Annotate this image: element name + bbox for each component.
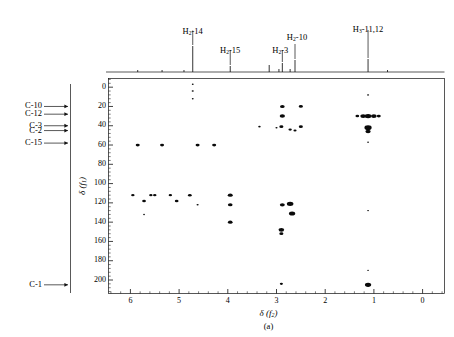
x-tick-label: 6: [128, 296, 132, 305]
cross-peak: [377, 115, 381, 118]
cross-peak: [365, 283, 371, 287]
y-tick-label: 120: [94, 197, 106, 206]
panel-letter: (a): [264, 321, 273, 331]
cross-peak: [192, 98, 194, 99]
x-tick-label: 2: [323, 296, 327, 305]
y-tick-label: 200: [94, 275, 106, 284]
proton-label-1: H2-14: [183, 26, 203, 36]
y-tick-label: 60: [98, 140, 106, 149]
cross-peak: [365, 130, 370, 134]
x-tick-label: 5: [177, 296, 181, 305]
x-tick-label: 4: [226, 296, 230, 305]
carbon-arrow-layer: [44, 105, 68, 287]
nmr-figure-panel: 6543210020406080100120140160180200δ (f2)…: [0, 0, 454, 337]
carbon-arrow-head: [64, 124, 68, 128]
cross-peak: [280, 105, 285, 108]
y-tick-label: 140: [94, 217, 106, 226]
cross-peak: [228, 193, 233, 196]
cross-peak: [365, 114, 372, 118]
carbon-arrow-head: [64, 129, 68, 133]
y-tick-label: 100: [94, 178, 106, 187]
carbon-label-c2: C-2: [29, 125, 42, 135]
y-tick-label: 0: [102, 82, 106, 91]
cross-peak: [364, 125, 371, 130]
cross-peak: [192, 90, 194, 91]
cross-peak: [279, 232, 283, 235]
cross-peak: [143, 214, 145, 215]
cross-peak: [228, 203, 233, 206]
cross-peak: [371, 114, 377, 118]
cross-peak: [228, 221, 233, 224]
cross-peak: [299, 125, 303, 128]
carbon-label-c1: C-1: [29, 279, 42, 289]
cross-peak: [279, 228, 285, 232]
y-tick-label: 80: [98, 159, 106, 168]
cross-peak: [279, 125, 283, 128]
proton-label-4: H2-10: [287, 32, 307, 42]
cross-peak-layer: [131, 84, 381, 287]
cross-peak: [355, 115, 359, 117]
cross-peak: [280, 203, 285, 206]
proton-label-3: H2-3: [272, 45, 288, 55]
cross-peak: [149, 194, 152, 196]
x-axis-title: δ (f2): [260, 308, 278, 318]
x-axis-ticks: [111, 289, 442, 294]
cross-peak: [288, 128, 291, 130]
proton-label-5: H3-11,12: [353, 24, 384, 34]
cross-peak: [367, 94, 369, 95]
cross-peak: [142, 200, 146, 202]
cross-peak: [289, 211, 295, 215]
cross-peak: [258, 126, 260, 128]
cross-peak: [175, 200, 179, 202]
carbon-label-c12: C-12: [25, 108, 42, 118]
cross-peak: [280, 114, 285, 118]
cross-peak: [367, 141, 369, 142]
cross-peak: [188, 194, 192, 196]
x-tick-label: 1: [372, 296, 376, 305]
y-axis-title: δ (f1): [77, 177, 87, 195]
cross-peak: [136, 144, 140, 147]
y-tick-label: 160: [94, 236, 106, 245]
cross-peak: [293, 130, 296, 132]
carbon-label-c15: C-15: [25, 137, 42, 147]
cross-peak: [287, 202, 294, 206]
cross-peak: [131, 194, 134, 196]
carbon-arrow-head: [64, 112, 68, 116]
cross-peak: [196, 144, 200, 147]
cross-peak: [367, 210, 369, 211]
y-tick-label: 40: [98, 120, 106, 129]
cross-peak: [367, 270, 369, 271]
carbon-arrow-head: [64, 141, 68, 145]
y-tick-label: 180: [94, 255, 106, 264]
cross-peak: [280, 283, 283, 285]
carbon-arrow-head: [64, 105, 68, 109]
carbon-arrow-head: [64, 283, 68, 287]
cross-peak: [197, 204, 199, 205]
cross-peak: [212, 144, 216, 147]
x-tick-label: 0: [421, 296, 425, 305]
cross-peak: [192, 84, 194, 85]
cross-peak: [153, 194, 156, 196]
cross-peak: [160, 144, 164, 147]
y-axis-ticks: [109, 79, 114, 291]
cross-peak: [275, 127, 277, 128]
cross-peak: [169, 194, 172, 196]
x-tick-label: 3: [275, 296, 279, 305]
proton-label-2: H2-15: [220, 45, 240, 55]
y-tick-label: 20: [98, 101, 106, 110]
plot-border: [109, 79, 445, 294]
cross-peak: [299, 105, 303, 108]
